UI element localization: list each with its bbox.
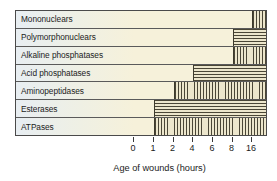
x-axis-tick [153,137,154,142]
x-axis: 01246816 [15,137,267,145]
x-axis-tick-label: 0 [130,143,135,153]
bar-row: Acid phosphatases [16,65,266,83]
bar-segment [154,100,266,117]
x-axis-line [15,137,267,138]
plot-area: MononuclearsPolymorphonuclearsAlkaline p… [15,10,267,136]
bar-row-label: Acid phosphatases [21,69,90,77]
x-axis-tick-label: 8 [229,143,234,153]
bar-row: Esterases [16,100,266,118]
bar-row: Polymorphonuclears [16,29,266,47]
x-axis-tick-label: 16 [246,143,256,153]
x-axis-tick-label: 1 [150,143,155,153]
wound-age-chart: MononuclearsPolymorphonuclearsAlkaline p… [0,0,277,181]
bar-row-label: Polymorphonuclears [21,33,96,41]
x-axis-tick [133,137,134,142]
x-axis-tick [192,137,193,142]
bar-row: Mononuclears [16,11,266,29]
x-axis-tick [251,137,252,142]
x-axis-tick [212,137,213,142]
x-axis-tick-label: 4 [189,143,194,153]
bar-segment [174,82,267,99]
bar-row: ATPases [16,118,266,135]
bar-row-label: Aminopeptidases [21,87,84,95]
bar-row-label: ATPases [21,122,54,130]
bar-segment [193,65,266,82]
bar-row-label: Alkaline phosphatases [21,51,103,59]
bar-segment [233,29,267,46]
bar-segment [154,118,266,135]
x-axis-title: Age of wounds (hours) [0,163,277,173]
bar-row: Aminopeptidases [16,82,266,100]
x-axis-tick-label: 6 [209,143,214,153]
bar-row-label: Esterases [21,105,57,113]
x-axis-title-text: Age of wounds (hours) [71,163,205,173]
bar-segment [233,47,267,64]
bar-row: Alkaline phosphatases [16,47,266,65]
bar-segment [252,11,266,28]
bar-row-label: Mononuclears [21,15,73,23]
x-axis-tick-label: 2 [170,143,175,153]
bar-rows: MononuclearsPolymorphonuclearsAlkaline p… [16,11,266,135]
x-axis-tick [232,137,233,142]
x-axis-tick [173,137,174,142]
